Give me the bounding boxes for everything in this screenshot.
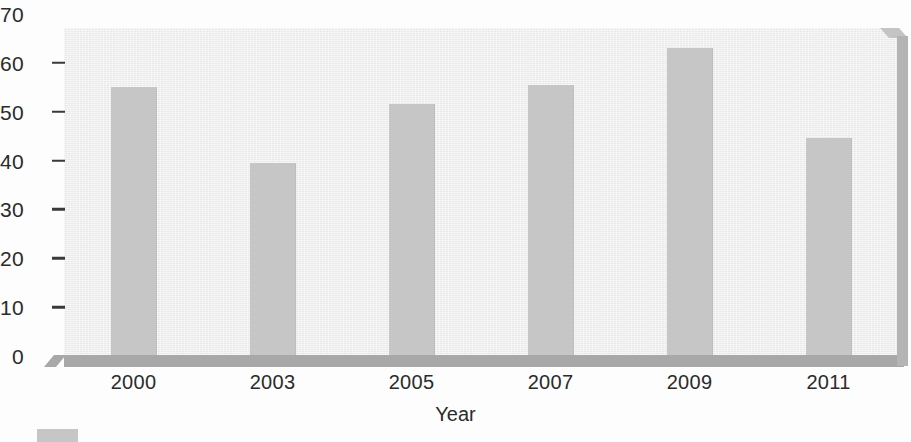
y-axis-tick-mark bbox=[52, 159, 65, 162]
bar-2007[interactable] bbox=[528, 85, 574, 356]
x-axis-tick-label-2009: 2009 bbox=[667, 372, 713, 392]
y-axis-tick-label: 30 bbox=[0, 199, 24, 220]
bar-2000[interactable] bbox=[111, 87, 157, 356]
plot-side-wall bbox=[897, 36, 908, 366]
bar-2009[interactable] bbox=[667, 48, 713, 356]
x-axis-tick-label-2007: 2007 bbox=[528, 372, 574, 392]
bar-chart-figure: 010203040506070 200020032005200720092011… bbox=[0, 0, 911, 442]
x-axis-title: Year bbox=[0, 404, 911, 424]
legend bbox=[37, 429, 88, 442]
y-axis-tick-label: 40 bbox=[0, 150, 24, 171]
y-axis-tick-label: 70 bbox=[0, 4, 24, 25]
x-axis-tick-label-2005: 2005 bbox=[389, 372, 435, 392]
y-axis-tick-mark bbox=[52, 110, 65, 113]
x-axis-tick-label-2003: 2003 bbox=[250, 372, 296, 392]
legend-swatch-series-1 bbox=[37, 429, 78, 442]
bar-2003[interactable] bbox=[250, 163, 296, 356]
bar-2011[interactable] bbox=[806, 138, 852, 356]
plot-floor bbox=[64, 355, 904, 367]
x-axis-tick-label-2011: 2011 bbox=[806, 372, 850, 392]
y-axis-tick-label: 0 bbox=[12, 346, 24, 367]
x-axis-tick-label-2000: 2000 bbox=[111, 372, 157, 392]
y-axis-tick-label: 50 bbox=[0, 101, 24, 122]
y-axis-tick-label: 10 bbox=[0, 297, 24, 318]
y-axis-tick-mark bbox=[52, 62, 65, 65]
y-axis-tick-mark bbox=[52, 208, 65, 211]
y-axis-tick-label: 20 bbox=[0, 248, 24, 269]
bar-2005[interactable] bbox=[389, 104, 435, 356]
y-axis-tick-mark bbox=[52, 257, 65, 260]
y-axis-tick-mark bbox=[52, 306, 65, 309]
y-axis-tick-label: 60 bbox=[0, 52, 24, 73]
y-axis: 010203040506070 bbox=[0, 0, 64, 442]
